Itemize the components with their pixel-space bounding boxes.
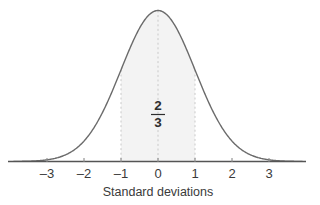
- x-tick-label-3: 3: [265, 166, 272, 181]
- x-tick-label-0: 0: [154, 166, 161, 181]
- x-tick-label--3: –3: [40, 166, 54, 181]
- x-tick-label-2: 2: [228, 166, 235, 181]
- x-axis-title: Standard deviations: [103, 185, 214, 199]
- x-tick-label--1: –1: [114, 166, 128, 181]
- fraction-numerator: 2: [154, 98, 162, 113]
- fraction-denominator: 3: [154, 115, 162, 130]
- x-tick-label--2: –2: [77, 166, 91, 181]
- chart-canvas: –3–2–10123 2 3 Standard deviations: [0, 0, 320, 205]
- x-axis-tick-labels: –3–2–10123: [40, 166, 273, 181]
- x-tick-label-1: 1: [191, 166, 198, 181]
- normal-distribution-figure: –3–2–10123 2 3 Standard deviations: [0, 0, 320, 205]
